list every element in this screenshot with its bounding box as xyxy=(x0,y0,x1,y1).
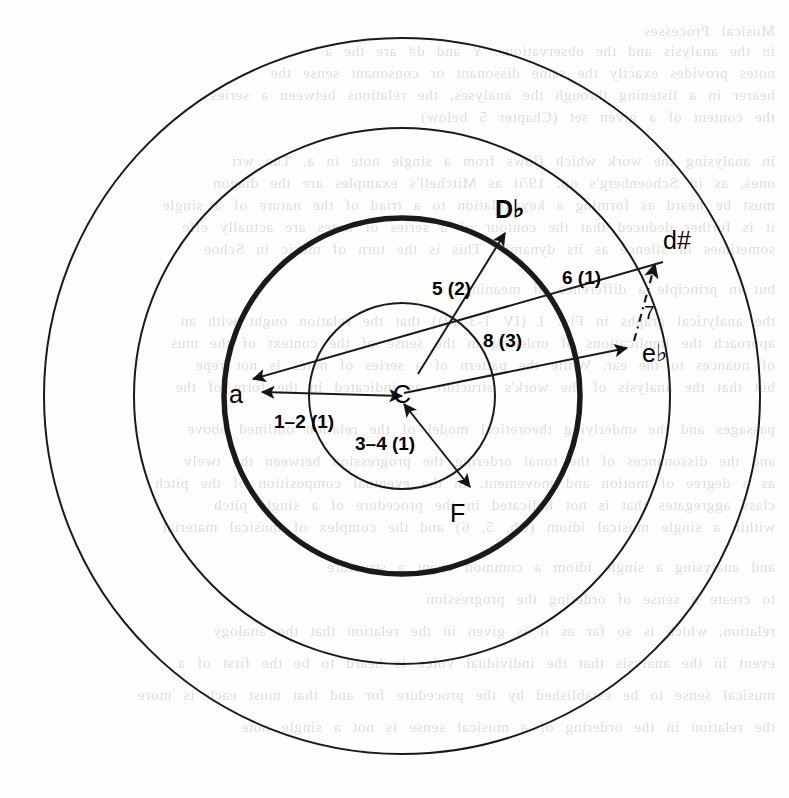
edge-label-edge-6: 6 (1) xyxy=(562,267,601,289)
flat-sign-icon: ♭ xyxy=(656,340,667,366)
edge-line-edge-6 xyxy=(404,348,627,393)
figure-container: Musical Processesin the analysis and the… xyxy=(0,0,789,798)
node-label-F: F xyxy=(450,499,465,528)
edge-label-edge-5: 5 (2) xyxy=(432,278,471,300)
node-label-Db: D♭ xyxy=(495,195,524,224)
edge-label-edge-1-2: 1–2 (1) xyxy=(274,411,334,433)
node-label-dsharp: d# xyxy=(663,226,691,255)
edges-group xyxy=(253,233,663,487)
edge-label-edge-3-4: 3–4 (1) xyxy=(355,433,415,455)
node-label-eb: e♭ xyxy=(642,339,667,368)
node-label-a: a xyxy=(229,380,243,409)
edge-line-edge-5 xyxy=(418,233,505,374)
flat-sign-icon: ♭ xyxy=(513,196,524,222)
edge-label-edge-7: 7 xyxy=(644,302,655,324)
edge-label-edge-8: 8 (3) xyxy=(483,330,522,352)
edge-line-edge-1-2 xyxy=(262,392,402,396)
node-label-C: C xyxy=(393,380,411,409)
